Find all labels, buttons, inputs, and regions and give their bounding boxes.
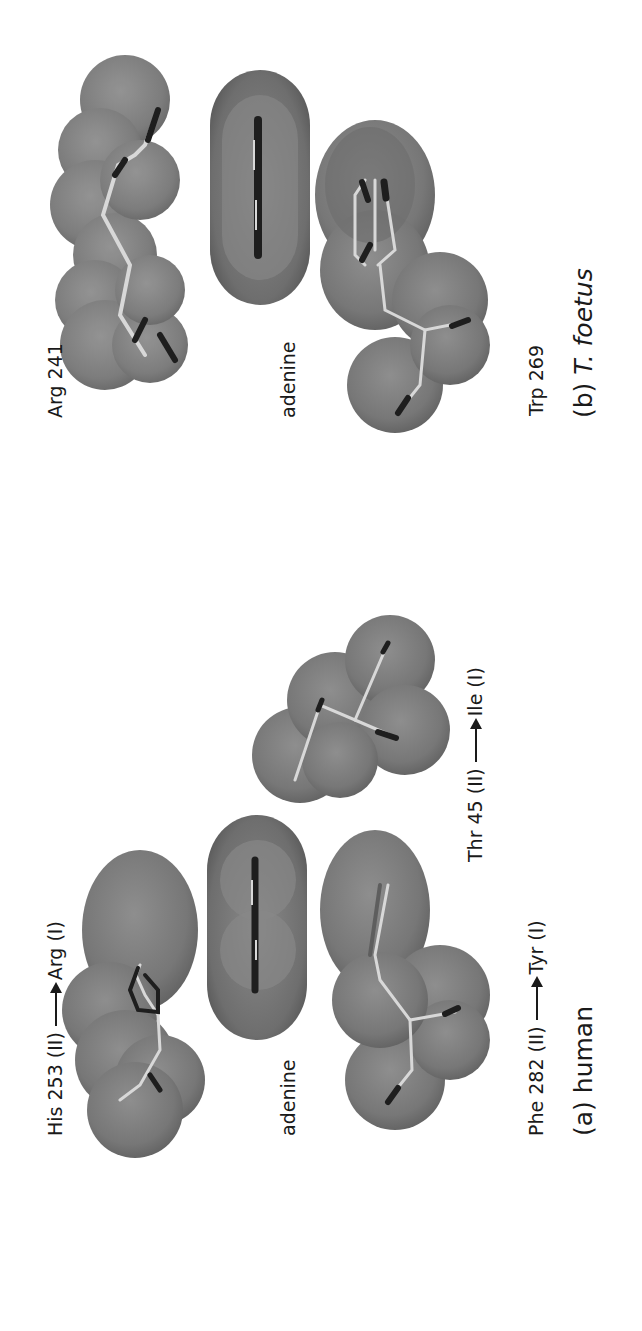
label-adenine-b: adenine: [279, 342, 298, 418]
label-adenine-a: adenine: [279, 1060, 298, 1136]
caption-b-organism: T. foetus: [569, 268, 598, 374]
arrow-icon: [536, 986, 538, 1020]
phe282-surface: [320, 830, 490, 1130]
label-his253-to-arg: His 253 (II)Arg (I): [46, 921, 65, 1136]
arrow-icon: [475, 728, 477, 762]
caption-b: (b) T. foetus: [571, 268, 596, 418]
label-trp269: Trp 269: [527, 345, 546, 416]
trp269-surface: [315, 120, 490, 433]
label-arg241: Arg 241: [46, 343, 65, 418]
adenine-a-surface: [207, 815, 307, 1040]
caption-a-organism: human: [569, 1006, 598, 1093]
caption-b-prefix: (b): [569, 383, 598, 418]
thr45-surface: [252, 615, 450, 803]
molecular-figure: Arg 241 adenine Trp 269 (b) T. foetus Hi…: [0, 0, 642, 1331]
thr45-from: Thr 45 (II): [464, 768, 486, 862]
arg241-surface: [50, 55, 188, 390]
caption-a: (a) human: [571, 1006, 596, 1136]
phe282-from: Phe 282 (II): [525, 1026, 547, 1136]
thr45-to: Ile (I): [464, 667, 486, 716]
arrow-icon: [55, 992, 57, 1026]
his253-to: Arg (I): [44, 921, 66, 980]
phe282-to: Tyr (I): [525, 920, 547, 974]
label-phe282-to-tyr: Phe 282 (II)Tyr (I): [527, 920, 546, 1136]
caption-a-prefix: (a): [569, 1101, 598, 1136]
his253-from: His 253 (II): [44, 1032, 66, 1136]
label-thr45-to-ile: Thr 45 (II)Ile (I): [466, 667, 485, 862]
adenine-b-surface: [210, 70, 310, 305]
